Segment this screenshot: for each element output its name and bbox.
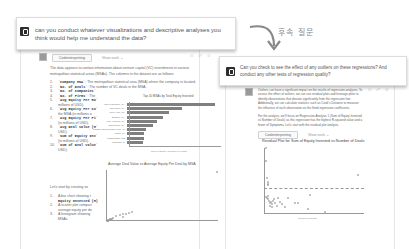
scatter-chart-deal-vs-equity (96, 162, 218, 222)
data-point (294, 202, 296, 204)
bar-label: Seattle-Tacoma-Bellevue, WA (93, 128, 127, 131)
assistant-avatar-icon (39, 53, 47, 61)
bar-label: New York, NY (93, 111, 127, 114)
data-point (357, 174, 359, 176)
scatter-left-y-axis (106, 170, 107, 220)
bar (127, 111, 169, 114)
tab-show-work[interactable]: Show work ⌄ (302, 132, 335, 138)
left-message-actions[interactable]: ⊡ ☍ ⊘ (190, 53, 212, 58)
bar-x-axis (129, 146, 221, 147)
data-point (128, 212, 130, 214)
bar-row: Los Angeles, CA (93, 120, 157, 123)
data-point (265, 147, 267, 149)
data-point (125, 213, 127, 215)
user-avatar-icon (20, 27, 29, 36)
left-user-prompt-text: can you conduct whatever visualizations … (35, 26, 233, 42)
data-point (216, 171, 218, 173)
left-intro-text: The data appears to contain information … (50, 66, 200, 77)
bar-label: San Diego, CA (93, 124, 127, 127)
bar-label: Los Angeles, CA (93, 120, 127, 123)
bar-row: Austin, TX (93, 132, 144, 135)
bar-label: Boston, MA (93, 116, 127, 119)
user-avatar-icon (226, 67, 235, 76)
bar-x-label: Sum of Equity Invested (M USD) (151, 150, 187, 153)
bar (127, 124, 153, 127)
assistant-avatar-icon (245, 88, 253, 96)
bar-row: Chicago, IL (93, 141, 143, 144)
bar (127, 128, 146, 131)
residual-zero-line (264, 188, 364, 189)
bar-chart-top-msas: Top 10 MSAs by Total Equity Invested San… (93, 92, 221, 152)
right-message-actions[interactable]: ⊡ ☍ ⊘ (368, 87, 390, 92)
data-point (266, 177, 268, 179)
residual-scatter-chart: Number of Deals (258, 140, 370, 215)
data-point (122, 216, 124, 218)
bar-row: San Francisco, CA (93, 103, 215, 106)
bar (127, 116, 163, 119)
data-point (307, 208, 309, 210)
left-user-prompt-card: can you conduct whatever visualizations … (16, 17, 236, 50)
right-para-1: Outliers can have a significant impact o… (258, 88, 363, 110)
data-point (267, 195, 269, 197)
bar-label: Washington, DC (93, 137, 127, 140)
left-response-tabs: Codeinterpreting Show work ⌄ (52, 54, 129, 62)
bar-row: San Jose, CA (93, 107, 182, 110)
data-point (277, 197, 279, 199)
bar-row: Seattle-Tacoma-Bellevue, WA (93, 128, 146, 131)
data-point (122, 213, 124, 215)
data-point (276, 205, 278, 207)
data-point (324, 211, 326, 213)
list-item: MSAs. (50, 217, 98, 222)
data-point (284, 206, 286, 208)
data-point (119, 214, 121, 216)
data-point (274, 202, 276, 204)
bar-label: San Jose, CA (93, 107, 127, 110)
right-para-2: For the analysis, we'll focus on Regress… (258, 114, 363, 127)
bar-row: New York, NY (93, 111, 169, 114)
right-user-prompt-text: Can you check to see the effect of any o… (240, 64, 402, 78)
data-point (309, 194, 311, 196)
bar (127, 107, 182, 110)
followup-question-label: 후속 질문 (278, 26, 314, 37)
bar-row: Washington, DC (93, 137, 144, 140)
data-point (267, 184, 269, 186)
data-point (271, 206, 273, 208)
data-point (287, 197, 289, 199)
data-point (115, 215, 117, 217)
residual-y-axis (264, 148, 265, 213)
data-point (297, 202, 299, 204)
data-point (281, 203, 283, 205)
bar (127, 120, 157, 123)
data-point (273, 198, 275, 200)
residual-x-axis (264, 213, 364, 214)
right-user-prompt-card: Can you check to see the effect of any o… (219, 56, 407, 86)
tab-show-work[interactable]: Show work ⌄ (96, 55, 129, 61)
residual-x-label: Number of Deals (298, 217, 317, 220)
plan-intro-text: Let's start by creating so (50, 185, 88, 191)
bar-y-axis (129, 102, 130, 146)
bar-row: Boston, MA (93, 116, 163, 119)
tab-codeinterpreting[interactable]: Codeinterpreting (258, 131, 298, 139)
bar-label: Chicago, IL (93, 141, 127, 144)
bar-label: Austin, TX (93, 132, 127, 135)
plan-list: 1.A bar chart showing t Equity Invested … (50, 194, 98, 221)
right-response-tabs: Codeinterpreting Show work ⌄ (258, 131, 335, 139)
bar-row: San Diego, CA (93, 124, 153, 127)
bar-label: San Francisco, CA (93, 103, 127, 106)
data-point (112, 217, 114, 219)
bar (127, 103, 215, 106)
scatter-left-x-axis (106, 220, 218, 221)
data-point (265, 160, 267, 162)
data-point (131, 211, 133, 213)
bar-chart-title: Top 10 MSAs by Total Equity Invested (143, 94, 193, 98)
tab-codeinterpreting[interactable]: Codeinterpreting (52, 54, 92, 62)
